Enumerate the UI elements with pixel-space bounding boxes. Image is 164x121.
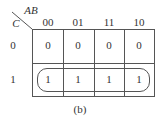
row-variable-label: C [10,18,22,29]
column-header: 01 [63,17,93,28]
grouping-loop [37,68,150,92]
map-cell: 0 [63,40,93,51]
column-header: 11 [94,17,124,28]
column-variable-label: AB [22,5,40,16]
map-cell: 0 [33,40,63,51]
figure-caption: (b) [60,104,100,115]
row-header: 1 [6,74,20,85]
grid-divider [33,63,154,64]
map-cell: 0 [94,40,124,51]
column-header: 10 [124,17,154,28]
map-cell: 0 [124,40,154,51]
column-header: 00 [33,17,63,28]
row-header: 0 [6,40,20,51]
